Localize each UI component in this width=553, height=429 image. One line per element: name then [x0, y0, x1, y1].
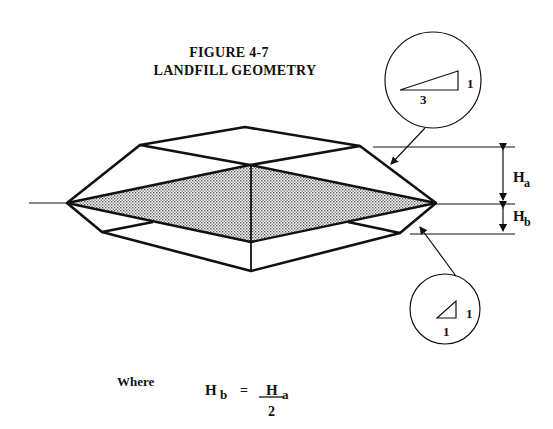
lower-fill-body: [67, 165, 436, 271]
svg-text:=: =: [240, 383, 248, 398]
svg-text:3: 3: [420, 92, 427, 107]
landfill-geometry-diagram: H a H b 1 3 1 1 H b = H a 2: [0, 0, 553, 429]
height-equation: H b = H a 2: [205, 382, 289, 419]
svg-text:1: 1: [466, 306, 473, 321]
svg-text:a: a: [282, 387, 289, 402]
upper-slope-callout: 1 3: [385, 32, 481, 164]
svg-text:b: b: [220, 387, 227, 402]
svg-text:H: H: [205, 382, 217, 398]
svg-text:a: a: [524, 176, 530, 190]
upper-callout-leader: [391, 128, 425, 164]
equation-intro: Where: [117, 374, 154, 390]
lower-height-label: H b: [513, 208, 531, 229]
svg-text:1: 1: [443, 324, 450, 339]
svg-text:2: 2: [268, 404, 275, 419]
svg-text:b: b: [524, 215, 531, 229]
lower-slope-callout: 1 1: [410, 227, 480, 344]
svg-text:H: H: [266, 382, 278, 398]
svg-text:1: 1: [467, 76, 474, 91]
upper-height-label: H a: [513, 169, 530, 190]
